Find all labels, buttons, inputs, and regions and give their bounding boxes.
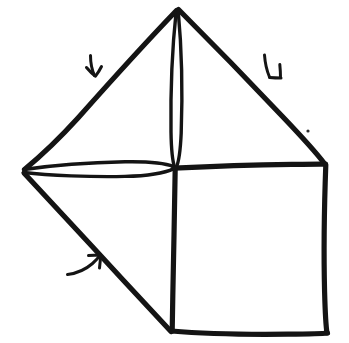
edge-left-to-center-lower-stroke: [24, 169, 174, 177]
origami-fold-drawing: [0, 0, 349, 343]
edge-bottom-left-to-bottom-right: [172, 331, 328, 334]
edge-apex-to-center-left-stroke: [171, 11, 176, 167]
arrow-lower-left-shaft: [68, 255, 101, 275]
arrow-upper-right-shaft: [265, 55, 270, 77]
edge-center-to-bottom-left: [172, 169, 175, 332]
arrow-upper-right-head: [270, 65, 282, 79]
edge-left-to-center-upper-stroke: [24, 162, 174, 170]
edge-apex-to-right: [179, 10, 325, 164]
edge-center-to-right: [174, 164, 326, 168]
arrow-upper-right-icon: [265, 55, 282, 78]
edge-apex-to-center-right-stroke: [176, 11, 182, 167]
arrow-lower-left-icon: [68, 255, 101, 275]
arrow-upper-left-icon: [87, 56, 102, 77]
ink-speck: [306, 129, 309, 132]
figure-canvas: Hand-drawn origami fold diagram Line dra…: [0, 0, 349, 343]
edge-left-to-bottom-left: [24, 173, 171, 332]
edge-right-to-bottom-right: [324, 165, 327, 333]
edge-apex-to-left: [25, 11, 177, 170]
